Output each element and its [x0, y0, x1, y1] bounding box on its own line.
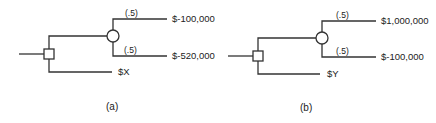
tree-b-outcome-1-branch — [322, 21, 376, 32]
tree-b-outcome-1-payoff: $1,000,000 — [381, 16, 429, 26]
decision-tree-a — [19, 19, 167, 72]
tree-a-outcome-1-branch — [113, 19, 167, 30]
tree-a-decision-node-square — [44, 49, 54, 59]
tree-a-gamble-branch — [49, 36, 107, 49]
tree-a-caption: (a) — [106, 102, 118, 112]
tree-b-decision-node-square — [253, 51, 263, 61]
tree-a-chance-node-circle — [107, 30, 119, 42]
tree-a-outcome-2-payoff: $-520,000 — [172, 51, 215, 61]
tree-b-outcome-2-payoff: $-100,000 — [381, 52, 424, 62]
tree-a-outcome-1-probability: (.5) — [125, 9, 138, 18]
tree-a-outcome-2-branch — [113, 42, 167, 56]
tree-b-outcome-1-probability: (.5) — [336, 11, 349, 20]
tree-a-certain-branch — [49, 59, 112, 72]
tree-b-chance-node-circle — [316, 32, 328, 44]
tree-b-gamble-branch — [258, 38, 316, 51]
tree-b-caption: (b) — [300, 103, 312, 113]
tree-a-outcome-1-payoff: $-100,000 — [172, 14, 215, 24]
tree-b-outcome-2-probability: (.5) — [336, 47, 349, 56]
decision-tree-b — [228, 21, 376, 74]
decision-trees-canvas — [0, 0, 436, 123]
tree-b-certain-payoff: $Y — [327, 69, 339, 79]
tree-a-outcome-2-probability: (.5) — [124, 46, 137, 55]
tree-b-certain-branch — [258, 61, 320, 74]
tree-b-outcome-2-branch — [322, 44, 376, 57]
tree-a-certain-payoff: $X — [118, 67, 130, 77]
